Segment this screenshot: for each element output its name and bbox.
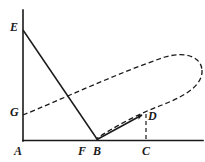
point-label-F: F <box>78 145 86 157</box>
dashed-oval-lower-branch <box>96 70 202 139</box>
figure-canvas <box>0 0 205 162</box>
segment-EB <box>23 30 98 141</box>
point-label-B: B <box>93 145 101 157</box>
geometric-figure: E G A F B C D <box>0 0 205 162</box>
point-label-A: A <box>14 145 22 157</box>
dashed-oval-upper-branch <box>23 55 202 115</box>
point-label-D: D <box>148 110 157 122</box>
point-label-C: C <box>142 145 150 157</box>
point-label-E: E <box>10 21 18 33</box>
point-label-G: G <box>10 106 19 118</box>
segment-BD-arrow <box>97 115 142 140</box>
